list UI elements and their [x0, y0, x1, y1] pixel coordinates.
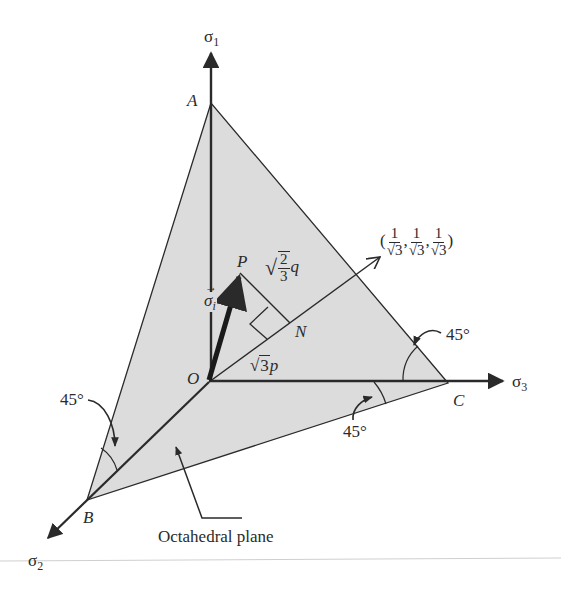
bottom-rule: [0, 558, 561, 561]
diagram-canvas: [0, 0, 561, 595]
sigma2-label: σ2: [28, 552, 43, 572]
point-a-label: A: [187, 92, 197, 109]
pointer-c-upper: [414, 331, 441, 345]
sigma3-label: σ3: [512, 373, 527, 393]
angle-label-b: 45°: [60, 391, 84, 408]
point-b-label: B: [83, 509, 93, 526]
point-n-label: N: [295, 323, 306, 340]
octahedral-plane-label: Octahedral plane: [158, 528, 274, 545]
angle-label-c-lower: 45°: [343, 423, 367, 440]
hydrostatic-direction-label: (1√3,1√3,1√3): [380, 226, 453, 259]
stress-vector-label: → σ i: [203, 292, 217, 312]
point-c-label: C: [453, 392, 464, 409]
p-label: √3p: [250, 357, 278, 374]
point-o-label: O: [187, 370, 199, 387]
sigma1-label: σ1: [204, 28, 219, 48]
q-label: √23q: [265, 251, 299, 285]
angle-label-c-upper: 45°: [446, 326, 470, 343]
point-p-label: P: [237, 253, 247, 270]
